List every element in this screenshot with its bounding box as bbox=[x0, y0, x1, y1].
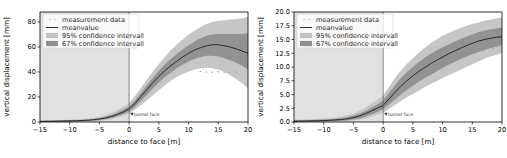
legend-item-label: meanvalue bbox=[62, 24, 99, 32]
legend-item-label: 95% confidence intervall bbox=[316, 32, 398, 40]
measurement-data-point bbox=[224, 71, 225, 72]
y-tick-label: 20.0 bbox=[275, 8, 290, 16]
y-tick-label: 5.0 bbox=[279, 91, 290, 99]
x-tick-label: −5 bbox=[348, 126, 358, 134]
y-tick-label: 10.0 bbox=[275, 63, 290, 71]
y-tick-label: 7.5 bbox=[279, 77, 290, 85]
measurement-data-point bbox=[483, 50, 484, 51]
legend-marker-patch bbox=[300, 41, 312, 46]
y-tick-label: 17.5 bbox=[275, 22, 290, 30]
legend-item-label: 67% confidence intervall bbox=[62, 40, 144, 48]
measurement-data-point bbox=[229, 72, 230, 73]
x-tick-label: −5 bbox=[95, 126, 105, 134]
measurement-data-point bbox=[438, 65, 439, 66]
measurement-data-point bbox=[456, 59, 457, 60]
x-tick-label: 20 bbox=[497, 126, 505, 134]
legend-item-label: measurement data bbox=[316, 16, 379, 24]
x-tick-label: −15 bbox=[287, 126, 301, 134]
y-tick-label: 0 bbox=[32, 118, 36, 126]
measurement-data-point bbox=[474, 52, 475, 53]
chart-right: −15−10−5051015200.02.55.07.510.012.515.0… bbox=[254, 0, 507, 158]
y-tick-label: 80 bbox=[28, 18, 36, 26]
tunnel-face-label: tunnel face bbox=[387, 112, 413, 117]
legend-marker-patch bbox=[46, 41, 58, 46]
panel-left: −15−10−505101520020406080distance to fac… bbox=[0, 0, 254, 158]
tunnel-face-arrow-icon bbox=[383, 112, 386, 115]
x-tick-label: 0 bbox=[381, 126, 385, 134]
chart-left: −15−10−505101520020406080distance to fac… bbox=[0, 0, 254, 158]
x-tick-label: 5 bbox=[157, 126, 161, 134]
tunnel-face-arrow-icon bbox=[130, 112, 133, 115]
measurement-data-point bbox=[200, 71, 201, 72]
y-tick-label: 40 bbox=[28, 68, 36, 76]
measurement-data-point bbox=[492, 48, 493, 49]
x-axis-title: distance to face [m] bbox=[108, 137, 181, 146]
legend-marker-patch bbox=[300, 33, 312, 38]
x-axis-title: distance to face [m] bbox=[361, 137, 434, 146]
measurement-data-point bbox=[429, 69, 430, 70]
legend-item-label: measurement data bbox=[62, 16, 125, 24]
x-tick-label: −10 bbox=[63, 126, 77, 134]
legend-item-label: 67% confidence intervall bbox=[316, 40, 398, 48]
legend-marker-patch bbox=[46, 33, 58, 38]
y-tick-label: 15.0 bbox=[275, 36, 290, 44]
y-tick-label: 0.0 bbox=[279, 118, 290, 126]
x-tick-label: −15 bbox=[33, 126, 47, 134]
y-tick-label: 12.5 bbox=[275, 50, 290, 58]
tunnel-face-label: tunnel face bbox=[134, 112, 160, 117]
x-tick-label: 0 bbox=[127, 126, 131, 134]
y-tick-label: 60 bbox=[28, 43, 36, 51]
measurement-data-point bbox=[218, 71, 219, 72]
measurement-data-point bbox=[235, 72, 236, 73]
panel-right: −15−10−5051015200.02.55.07.510.012.515.0… bbox=[254, 0, 507, 158]
x-tick-label: 10 bbox=[438, 126, 446, 134]
figure-two-panel-displacement: −15−10−505101520020406080distance to fac… bbox=[0, 0, 507, 158]
measurement-data-point bbox=[465, 55, 466, 56]
x-tick-label: 5 bbox=[410, 126, 414, 134]
x-tick-label: 15 bbox=[468, 126, 476, 134]
legend-marker-dots bbox=[49, 19, 50, 20]
legend-item-label: meanvalue bbox=[316, 24, 353, 32]
y-tick-label: 2.5 bbox=[279, 105, 290, 113]
legend-marker-dots bbox=[303, 19, 304, 20]
measurement-data-point bbox=[212, 72, 213, 73]
legend-marker-dots bbox=[54, 19, 55, 20]
y-axis-title: vertical displacement [mm] bbox=[2, 17, 11, 117]
measurement-data-point bbox=[447, 62, 448, 63]
legend-marker-dots bbox=[308, 19, 309, 20]
x-tick-label: 10 bbox=[184, 126, 192, 134]
legend-item-label: 95% confidence intervall bbox=[62, 32, 144, 40]
y-tick-label: 20 bbox=[28, 93, 36, 101]
y-axis-title: vertical displacement [mm] bbox=[256, 17, 265, 117]
x-tick-label: −10 bbox=[316, 126, 330, 134]
measurement-data-point bbox=[206, 71, 207, 72]
x-tick-label: 15 bbox=[214, 126, 222, 134]
x-tick-label: 20 bbox=[244, 126, 252, 134]
